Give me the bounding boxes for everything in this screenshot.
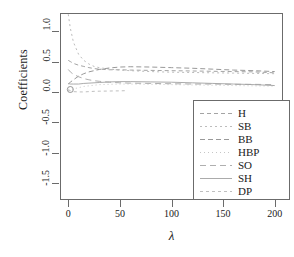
legend-key-icon <box>198 107 234 120</box>
y-tick-label: -1.5 <box>41 170 51 186</box>
legend-key-icon <box>198 185 234 198</box>
x-tick-label: 150 <box>216 209 231 219</box>
x-tick <box>68 200 69 207</box>
series-line-hbp <box>68 84 274 91</box>
x-tick <box>172 200 173 207</box>
legend-key-icon <box>198 146 234 159</box>
legend-item-bb: BB <box>194 133 289 146</box>
series-line-h <box>68 60 274 72</box>
legend-label: HBP <box>238 147 259 158</box>
y-tick <box>52 92 59 93</box>
series-line-dp <box>68 90 125 92</box>
y-tick-label: -1.0 <box>41 140 51 156</box>
x-axis-title: λ <box>60 228 283 244</box>
x-axis: 050100150200 <box>60 200 283 208</box>
legend-label: H <box>238 108 246 119</box>
y-axis-labels: -1.5-1.0-0.50.00.51.0 <box>0 0 50 187</box>
legend-item-sb: SB <box>194 120 289 133</box>
y-tick-label: 1.0 <box>41 18 51 31</box>
legend-item-sh: SH <box>194 172 289 185</box>
x-tick <box>275 200 276 207</box>
legend-key-icon <box>198 172 234 185</box>
chart-container: Coefficients -1.5-1.0-0.50.00.51.0 05010… <box>0 0 294 257</box>
x-tick-label: 0 <box>66 209 71 219</box>
x-tick-label: 50 <box>115 209 125 219</box>
legend-label: DP <box>238 186 252 197</box>
legend-item-h: H <box>194 107 289 120</box>
legend-label: BB <box>238 134 253 145</box>
legend-label: SH <box>238 173 252 184</box>
series-line-sh <box>68 82 274 86</box>
y-axis <box>52 13 60 200</box>
y-tick <box>52 62 59 63</box>
series-line-sb <box>68 14 274 74</box>
legend: HSBBBHBPSOSHDP <box>193 100 290 200</box>
y-tick <box>52 153 59 154</box>
y-tick <box>52 122 59 123</box>
y-tick-label: 0.5 <box>41 49 51 62</box>
x-tick <box>223 200 224 207</box>
legend-label: SO <box>238 160 252 171</box>
x-tick-label: 200 <box>267 209 282 219</box>
legend-key-icon <box>198 120 234 133</box>
y-tick-label: -0.5 <box>41 109 51 125</box>
legend-item-so: SO <box>194 159 289 172</box>
legend-label: SB <box>238 121 251 132</box>
y-tick <box>52 31 59 32</box>
y-tick-label: 0.0 <box>41 79 51 92</box>
legend-key-icon <box>198 159 234 172</box>
y-tick <box>52 183 59 184</box>
x-tick-label: 100 <box>164 209 179 219</box>
legend-key-icon <box>198 133 234 146</box>
x-tick <box>120 200 121 207</box>
legend-item-dp: DP <box>194 185 289 198</box>
legend-item-hbp: HBP <box>194 146 289 159</box>
